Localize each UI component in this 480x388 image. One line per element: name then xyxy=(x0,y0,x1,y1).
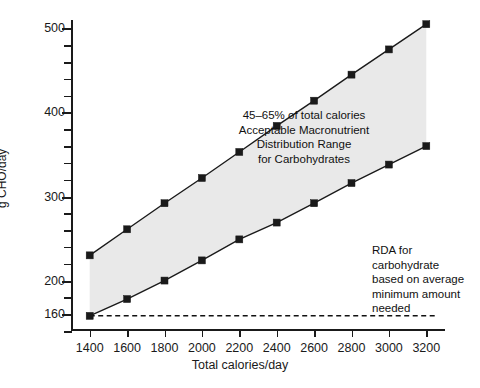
y-tick-label: 300 xyxy=(44,190,65,203)
y-tick-label: 200 xyxy=(44,274,65,287)
chart-figure: 160200300400500 140016001800200022002400… xyxy=(0,0,480,388)
data-point-marker xyxy=(311,200,318,207)
data-point-marker xyxy=(385,161,392,168)
x-tick-label: 1800 xyxy=(151,342,179,355)
y-tick-label: 400 xyxy=(44,106,65,119)
data-point-marker xyxy=(161,200,168,207)
data-point-marker xyxy=(198,175,205,182)
data-point-marker xyxy=(161,277,168,284)
data-point-marker xyxy=(311,97,318,104)
data-point-marker xyxy=(348,71,355,78)
y-tick-label: 500 xyxy=(44,22,65,35)
amdr-annotation-text: 45–65% of total calories Acceptable Macr… xyxy=(224,108,384,166)
data-point-marker xyxy=(124,226,131,233)
x-tick-label: 1400 xyxy=(76,342,104,355)
data-point-marker xyxy=(198,257,205,264)
y-tick-label: 160 xyxy=(44,308,65,321)
data-point-marker xyxy=(273,219,280,226)
y-tick-minor xyxy=(64,331,72,333)
data-point-marker xyxy=(86,252,93,259)
data-point-marker xyxy=(124,296,131,303)
data-point-marker xyxy=(86,312,93,319)
x-tick-label: 2400 xyxy=(263,342,291,355)
data-point-marker xyxy=(423,21,430,28)
rda-annotation-text: RDA for carbohydrate based on average mi… xyxy=(372,243,478,316)
x-tick-label: 1600 xyxy=(113,342,141,355)
x-axis-title: Total calories/day xyxy=(0,358,480,372)
data-point-marker xyxy=(385,46,392,53)
data-point-marker xyxy=(348,180,355,187)
x-tick-label: 2200 xyxy=(225,342,253,355)
x-tick-label: 2000 xyxy=(188,342,216,355)
x-tick-label: 3000 xyxy=(375,342,403,355)
x-tick-label: 2600 xyxy=(300,342,328,355)
data-point-marker xyxy=(423,143,430,150)
data-point-marker xyxy=(236,236,243,243)
y-axis-title: g CHO/day xyxy=(0,149,9,208)
x-tick-label: 2800 xyxy=(338,342,366,355)
x-tick-label: 3200 xyxy=(412,342,440,355)
